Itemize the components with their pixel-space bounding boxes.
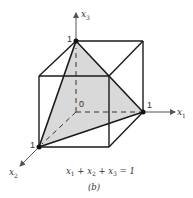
vertex-x3: [74, 39, 79, 44]
x2-axis-label: x2: [9, 167, 18, 179]
x3-axis-label: x3: [81, 9, 90, 21]
origin-label: 0: [79, 99, 84, 109]
vertex-x1: [141, 110, 146, 115]
x1-axis-label: x1: [177, 107, 186, 119]
figure-caption: (b): [88, 182, 100, 192]
x1-unit-label: 1: [147, 100, 152, 110]
plane-equation: x1 + x2 + x3 = 1: [66, 166, 135, 177]
x3-unit-label: 1: [67, 34, 72, 44]
x2-unit-label: 1: [30, 140, 35, 150]
simplex-diagram: x3 x1 x2 1 1 1 0 x1 + x2 + x3 = 1 (b): [0, 0, 193, 198]
vertex-x2: [37, 145, 42, 150]
